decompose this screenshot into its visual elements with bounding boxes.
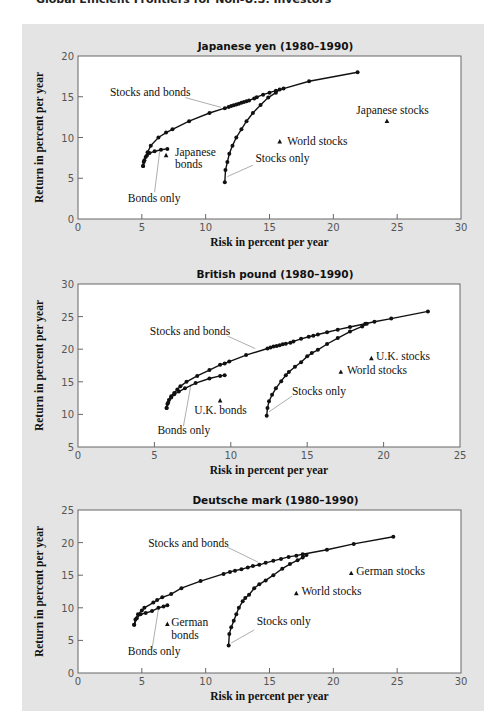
annotation-japanese: Japanese <box>175 146 216 159</box>
data-point <box>207 368 211 372</box>
data-point <box>177 390 181 394</box>
annotation-german: German <box>171 616 208 628</box>
data-point <box>170 127 174 131</box>
y-axis-label: Return in percent per year <box>33 526 46 657</box>
y-tick-label: 10 <box>61 603 74 614</box>
data-point <box>247 593 251 597</box>
data-point <box>265 406 269 410</box>
y-tick-label: 30 <box>61 279 74 290</box>
data-point <box>234 136 238 140</box>
annotation-stocks-and-bonds: Stocks and bonds <box>150 325 231 337</box>
data-point <box>150 609 154 613</box>
data-point <box>278 87 282 91</box>
data-point <box>325 342 329 346</box>
data-point <box>244 353 248 357</box>
y-axis-label: Return in percent per year <box>33 300 46 431</box>
annotation-bonds-only: Bonds only <box>157 424 210 437</box>
y-tick-label: 0 <box>68 214 74 225</box>
data-point <box>261 93 265 97</box>
data-point <box>223 168 227 172</box>
y-tick-label: 20 <box>61 51 74 62</box>
data-point <box>251 111 255 115</box>
data-point <box>153 149 157 153</box>
annotation-japanese-stocks: Japanese stocks <box>356 104 429 117</box>
x-tick-label: 5 <box>139 222 145 233</box>
data-point <box>151 601 155 605</box>
data-point <box>257 563 261 567</box>
data-point <box>284 342 288 346</box>
data-point <box>166 401 170 405</box>
annotation-stocks-only: Stocks only <box>292 385 346 398</box>
data-point <box>305 354 309 358</box>
data-point <box>233 569 237 573</box>
data-point <box>194 381 198 385</box>
data-point <box>165 603 169 607</box>
data-point <box>178 384 182 388</box>
annotation-bonds: bonds <box>175 158 203 170</box>
data-point <box>234 612 238 616</box>
data-point <box>265 414 269 418</box>
data-point <box>227 152 231 156</box>
x-tick-label: 15 <box>263 222 276 233</box>
data-point <box>169 592 173 596</box>
annotation-stocks-and-bonds: Stocks and bonds <box>110 86 191 98</box>
data-point <box>142 158 146 162</box>
data-point <box>264 561 268 565</box>
data-point <box>237 606 241 610</box>
y-tick-label: 5 <box>68 635 74 646</box>
data-point <box>316 348 320 352</box>
data-point <box>156 136 160 140</box>
data-point <box>199 579 203 583</box>
data-point <box>356 70 360 74</box>
annotation-german-stocks: German stocks <box>356 565 425 577</box>
annotation-bonds-only: Bonds only <box>128 192 181 205</box>
y-tick-label: 10 <box>61 409 74 420</box>
x-axis-label: Risk in percent per year <box>210 236 328 249</box>
data-point <box>218 374 222 378</box>
data-point <box>301 556 305 560</box>
y-tick-label: 10 <box>61 133 74 144</box>
y-tick-label: 5 <box>68 173 74 184</box>
annotation-stocks-and-bonds: Stocks and bonds <box>148 537 229 549</box>
data-point <box>156 606 160 610</box>
x-tick-label: 30 <box>455 222 468 233</box>
x-tick-label: 15 <box>263 676 276 687</box>
data-point <box>223 362 227 366</box>
data-point <box>179 586 183 590</box>
data-point <box>325 330 329 334</box>
data-point <box>287 555 291 559</box>
annotation-u-k-bonds: U.K. bonds <box>194 404 247 416</box>
data-point <box>299 360 303 364</box>
data-point <box>207 111 211 115</box>
x-tick-label: 5 <box>139 676 145 687</box>
data-point <box>310 351 314 355</box>
data-point <box>187 119 191 123</box>
y-tick-label: 20 <box>61 538 74 549</box>
data-point <box>139 612 143 616</box>
data-point <box>239 567 243 571</box>
x-axis-label: Risk in percent per year <box>210 690 328 703</box>
data-point <box>183 386 187 390</box>
chart-british-pound: British pound (1980–1990)051015202551015… <box>33 268 466 477</box>
annotation-world-stocks: World stocks <box>287 135 348 147</box>
x-tick-label: 10 <box>224 450 237 461</box>
data-point <box>372 320 376 324</box>
data-point <box>247 98 251 102</box>
data-point <box>360 324 364 328</box>
chart-title: Deutsche mark (1980–1990) <box>192 494 358 506</box>
data-point <box>307 335 311 339</box>
data-point <box>296 558 300 562</box>
chart-title: British pound (1980–1990) <box>197 268 354 280</box>
data-point <box>230 144 234 148</box>
annotation-stocks-only: Stocks only <box>257 615 311 628</box>
data-point <box>172 392 176 396</box>
y-tick-label: 25 <box>61 312 74 323</box>
data-point <box>241 599 245 603</box>
data-point <box>299 337 303 341</box>
data-point <box>284 373 288 377</box>
x-tick-label: 20 <box>377 450 390 461</box>
y-tick-label: 15 <box>61 377 74 388</box>
data-point <box>141 164 145 168</box>
data-point <box>165 406 169 410</box>
data-point <box>257 582 261 586</box>
